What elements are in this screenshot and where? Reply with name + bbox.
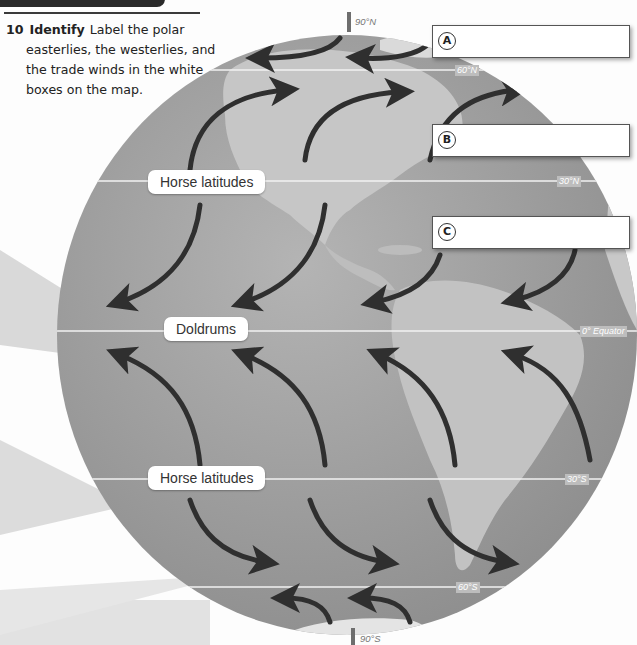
horse-latitudes-south-label: Horse latitudes <box>148 466 265 490</box>
horse-latitudes-north-label: Horse latitudes <box>148 170 265 194</box>
latitude-label-60n: 60°N <box>455 65 479 76</box>
latitude-label-60s: 60°S <box>456 582 480 593</box>
answer-box-c[interactable]: C <box>432 216 630 249</box>
north-pole-marker <box>347 12 351 32</box>
caribbean-islands <box>378 245 422 255</box>
north-pole-label: 90°N <box>355 16 376 27</box>
answer-letter-c: C <box>438 223 456 241</box>
answer-box-a[interactable]: A <box>432 25 630 58</box>
latitude-label-30n: 30°N <box>557 176 581 187</box>
south-pole-marker <box>351 628 355 645</box>
south-pole-label: 90°S <box>360 633 381 644</box>
equator-label: 0° Equator <box>580 326 627 337</box>
doldrums-label: Doldrums <box>164 317 248 341</box>
answer-box-b[interactable]: B <box>432 124 630 157</box>
answer-letter-b: B <box>438 131 456 149</box>
latitude-label-30s: 30°S <box>565 474 589 485</box>
answer-letter-a: A <box>438 32 456 50</box>
globe-diagram <box>0 0 637 645</box>
